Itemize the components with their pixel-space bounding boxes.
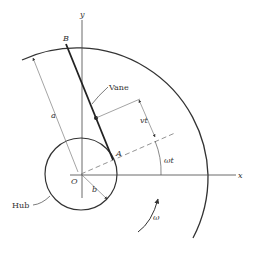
angle-label: ωt	[164, 156, 175, 165]
point-B-label: B	[62, 34, 69, 43]
dim-b-label: b	[92, 185, 97, 194]
vane-line	[66, 44, 113, 160]
origin-label: O	[71, 177, 78, 186]
dim-vt-label: vt	[140, 116, 149, 125]
outer-housing-arc	[22, 48, 208, 238]
dim-vt-extension	[96, 99, 140, 118]
hub-leader	[33, 196, 50, 205]
hub-label: Hub	[12, 201, 29, 210]
vane-diagram: y x B A O Vane a b vt ωt ω Hub	[0, 0, 255, 253]
angle-arc	[155, 141, 161, 175]
point-A-label: A	[115, 149, 122, 158]
vane-leader	[92, 87, 108, 104]
omega-label: ω	[153, 213, 160, 222]
y-axis-label: y	[79, 10, 85, 19]
vane-label: Vane	[108, 83, 129, 92]
x-axis-label: x	[238, 171, 243, 180]
dim-a-label: a	[51, 111, 56, 120]
